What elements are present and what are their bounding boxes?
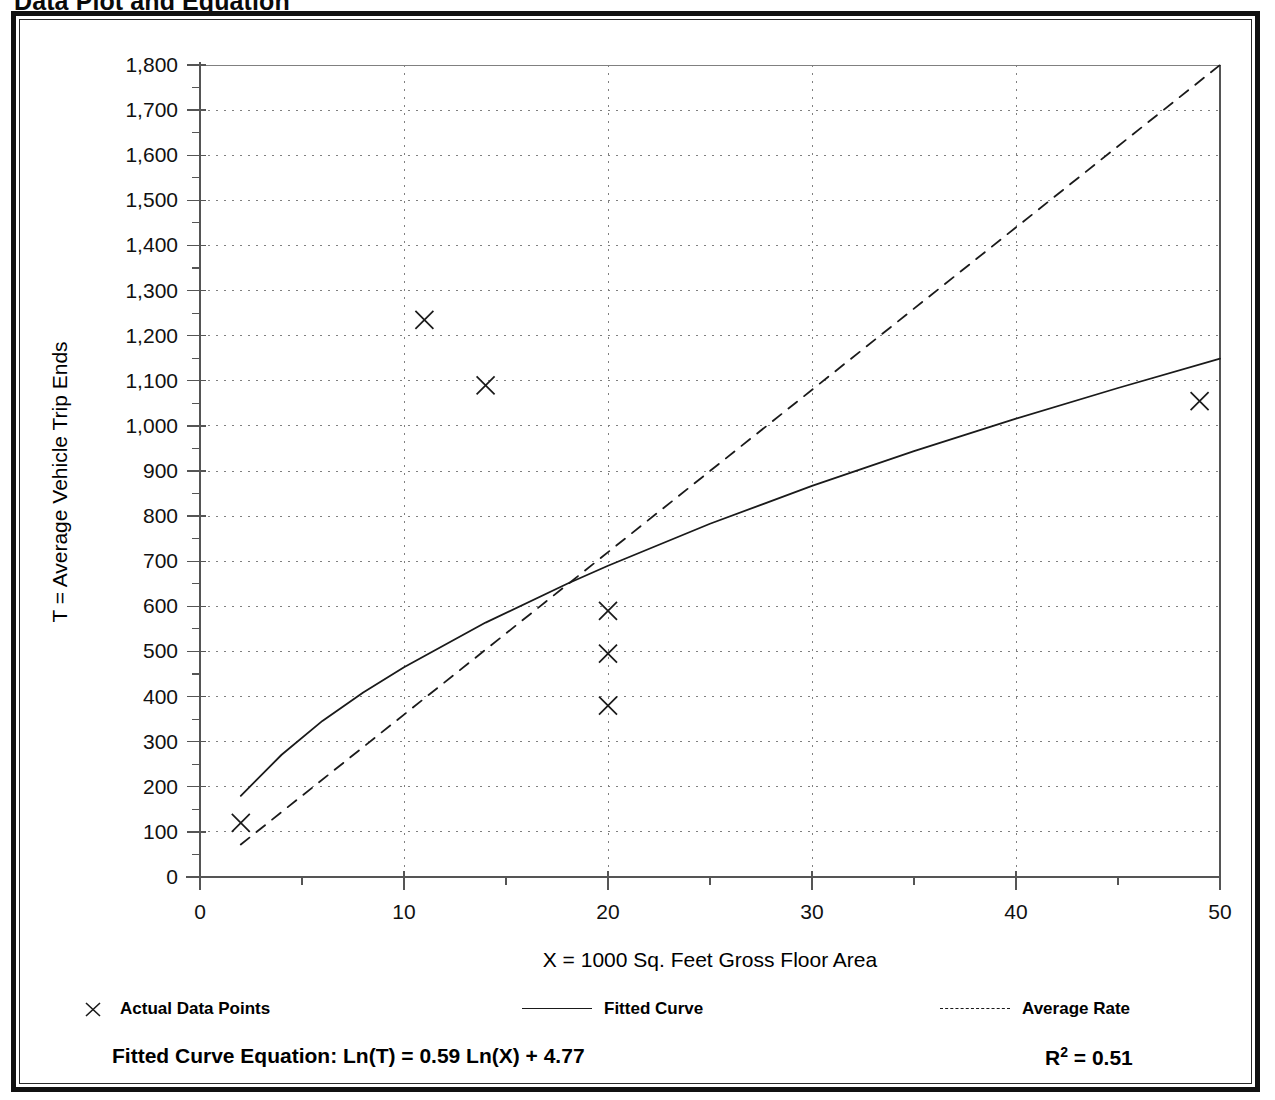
legend-label-fitted-curve: Fitted Curve	[604, 999, 703, 1019]
r-squared-exponent: 2	[1060, 1044, 1068, 1060]
equation-footer: Fitted Curve Equation: Ln(T) = 0.59 Ln(X…	[60, 1044, 1240, 1084]
legend-item-average-rate[interactable]: Average Rate	[940, 992, 1130, 1026]
r-squared-symbol: R	[1045, 1046, 1060, 1069]
fitted-curve-equation: Fitted Curve Equation: Ln(T) = 0.59 Ln(X…	[112, 1044, 585, 1068]
legend-label-average-rate: Average Rate	[1022, 999, 1130, 1019]
legend-item-fitted-curve[interactable]: Fitted Curve	[522, 992, 703, 1026]
legend-label-actual-data-points: Actual Data Points	[120, 999, 270, 1019]
r-squared-value: R2 = 0.51	[1045, 1044, 1133, 1070]
y-axis-title: T = Average Vehicle Trip Ends	[48, 272, 72, 692]
solid-line-icon	[522, 999, 592, 1019]
figure-frame-inner-border	[19, 19, 1252, 1084]
dashed-line-icon	[940, 999, 1010, 1019]
chart-legend: Actual Data Points Fitted Curve Average …	[60, 992, 1240, 1026]
r-squared-number: = 0.51	[1074, 1046, 1133, 1069]
legend-item-actual-data-points[interactable]: Actual Data Points	[80, 992, 270, 1026]
x-marker-icon	[80, 999, 106, 1019]
figure-frame	[11, 11, 1260, 1092]
x-axis-title: X = 1000 Sq. Feet Gross Floor Area	[200, 948, 1220, 972]
